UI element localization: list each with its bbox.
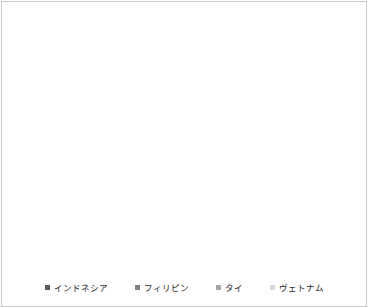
legend-label: ヴェトナム (279, 281, 324, 293)
legend-label: フィリピン (144, 281, 189, 293)
legend-marker-icon (270, 285, 275, 290)
legend-item-インドネシア: インドネシア (45, 281, 108, 293)
legend-item-ヴェトナム: ヴェトナム (270, 281, 324, 293)
legend-item-タイ: タイ (216, 281, 243, 293)
legend-label: インドネシア (54, 281, 108, 293)
chart-legend: インドネシアフィリピンタイヴェトナム (0, 281, 368, 293)
legend-marker-icon (135, 285, 140, 290)
legend-label: タイ (225, 281, 243, 293)
legend-marker-icon (45, 285, 50, 290)
legend-item-フィリピン: フィリピン (135, 281, 189, 293)
chart-outer-border (1, 1, 367, 307)
legend-marker-icon (216, 285, 221, 290)
